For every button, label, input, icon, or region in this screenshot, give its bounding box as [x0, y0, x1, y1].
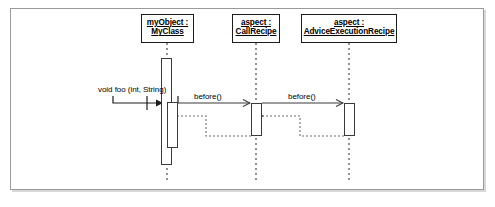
participant-name-line2: AdviceExecutionRecipe [302, 27, 396, 36]
participant-name-line1: myObject : [142, 18, 193, 27]
participant-name-line2: CallRecipe [233, 27, 279, 36]
participant-name-line1: aspect : [233, 18, 279, 27]
participant-box-callrecipe[interactable]: aspect : CallRecipe [232, 14, 280, 43]
participant-box-myobject[interactable]: myObject : MyClass [141, 14, 194, 43]
message-label-before-2: before() [288, 92, 316, 101]
activation-bar-callrecipe [251, 103, 262, 136]
participant-name-line2: MyClass [142, 27, 193, 36]
participant-box-adviceexecutionrecipe[interactable]: aspect : AdviceExecutionRecipe [301, 14, 397, 43]
activation-bar-advice [344, 103, 355, 136]
sequence-diagram-canvas: myObject : MyClass aspect : CallRecipe a… [0, 0, 495, 207]
participant-name-line1: aspect : [302, 18, 396, 27]
activation-bar-myobject-inner [167, 102, 178, 148]
return-arrow-1 [172, 116, 251, 136]
message-label-before-1: before() [194, 92, 222, 101]
message-label-void-foo: void foo (int, String) [98, 85, 166, 94]
return-arrow-2 [263, 116, 344, 136]
